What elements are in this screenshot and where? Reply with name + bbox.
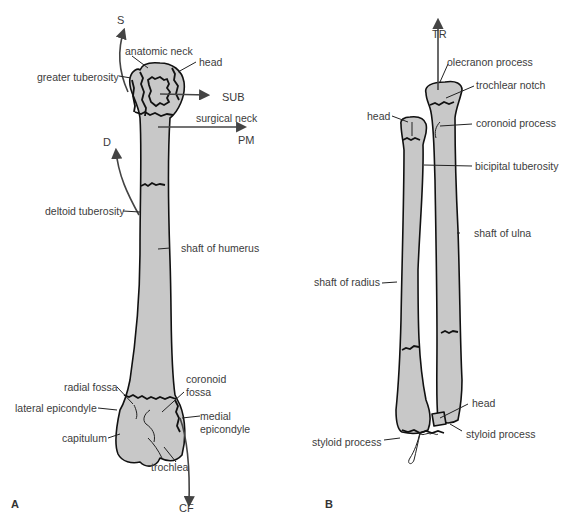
label-coronoid-fossa-line1: coronoid: [186, 373, 226, 385]
label-greater-tuberosity: greater tuberosity: [37, 71, 119, 83]
label-radius-head: head: [367, 110, 390, 122]
panel-letter-b: B: [325, 498, 333, 510]
radius-bone: [396, 117, 430, 434]
arrow-s: [120, 30, 128, 92]
label-ulna-head: head: [472, 397, 495, 409]
label-shaft-of-ulna: shaft of ulna: [474, 227, 531, 239]
label-styloid-process-ulna: styloid process: [466, 428, 535, 440]
arrow-sub: [160, 94, 208, 95]
label-shaft-of-humerus: shaft of humerus: [181, 242, 259, 254]
panel-letter-a: A: [11, 498, 19, 510]
label-bicipital-tuberosity: bicipital tuberosity: [475, 160, 558, 172]
ulna-bone: [426, 81, 462, 423]
humerus-bone: [116, 63, 185, 466]
label-anatomic-neck: anatomic neck: [125, 45, 193, 57]
label-deltoid-tuberosity: deltoid tuberosity: [45, 205, 124, 217]
label-medial-epicondyle-line2: epicondyle: [200, 423, 250, 435]
label-capitulum: capitulum: [62, 432, 107, 444]
axis-label-s: S: [117, 14, 124, 26]
axis-label-pm: PM: [238, 134, 255, 146]
label-radial-fossa: radial fossa: [64, 381, 118, 393]
axis-label-cf: CF: [179, 502, 194, 514]
axis-label-tr: TR: [432, 28, 447, 40]
label-styloid-process-radius: styloid process: [312, 436, 381, 448]
label-humerus-head: head: [199, 56, 222, 68]
axis-label-sub: SUB: [222, 91, 245, 103]
axis-label-d: D: [103, 136, 111, 148]
label-medial-epicondyle-line1: medial: [200, 410, 231, 422]
label-shaft-of-radius: shaft of radius: [314, 276, 380, 288]
label-surgical-neck: surgical neck: [196, 112, 257, 124]
label-coronoid-process: coronoid process: [476, 117, 556, 129]
label-trochlear-notch: trochlear notch: [476, 79, 545, 91]
label-coronoid-fossa-line2: fossa: [186, 386, 211, 398]
label-olecranon-process: olecranon process: [447, 56, 533, 68]
label-lateral-epicondyle: lateral epicondyle: [15, 402, 97, 414]
label-trochlea: trochlea: [151, 461, 188, 473]
